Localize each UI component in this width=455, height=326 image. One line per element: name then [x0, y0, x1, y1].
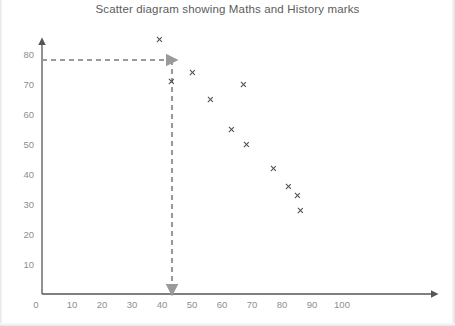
- x-tick-label-40: 40: [157, 299, 168, 310]
- y-tick-label-20: 20: [6, 229, 34, 240]
- y-tick-label-60: 60: [6, 109, 34, 120]
- x-tick-label-100: 100: [334, 299, 350, 310]
- y-tick-label-40: 40: [6, 169, 34, 180]
- axis-origin-label: 0: [33, 299, 38, 310]
- x-tick-label-60: 60: [217, 299, 228, 310]
- x-tick-label-30: 30: [127, 299, 138, 310]
- x-tick-label-50: 50: [187, 299, 198, 310]
- y-tick-label-70: 70: [6, 79, 34, 90]
- x-tick-label-10: 10: [67, 299, 78, 310]
- y-tick-label-30: 30: [6, 199, 34, 210]
- scatter-diagram-figure: Scatter diagram showing Maths and Histor…: [0, 0, 455, 326]
- x-tick-label-80: 80: [277, 299, 288, 310]
- plot-area: [0, 0, 455, 326]
- y-tick-label-80: 80: [6, 49, 34, 60]
- y-tick-label-50: 50: [6, 139, 34, 150]
- x-tick-label-70: 70: [247, 299, 258, 310]
- y-tick-label-10: 10: [6, 259, 34, 270]
- x-tick-label-90: 90: [307, 299, 318, 310]
- x-tick-label-20: 20: [97, 299, 108, 310]
